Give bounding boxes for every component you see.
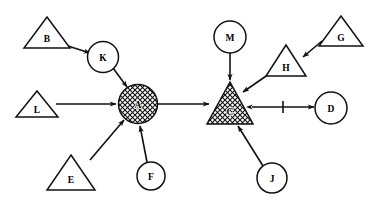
edge-b-to-k: [68, 46, 90, 53]
node-c-label: C: [227, 107, 234, 117]
network-diagram: B K L A E: [0, 0, 381, 206]
node-b[interactable]: B: [24, 17, 70, 48]
node-a-label: A: [135, 100, 142, 110]
edge-g-to-h: [303, 41, 322, 57]
node-l[interactable]: L: [16, 91, 58, 117]
node-j-label: J: [270, 174, 275, 184]
node-f[interactable]: F: [137, 162, 165, 190]
edge-f-to-a: [140, 126, 147, 162]
node-j[interactable]: J: [257, 163, 287, 193]
node-m-label: M: [226, 33, 235, 43]
edge-j-to-c: [238, 126, 263, 166]
node-e[interactable]: E: [47, 155, 95, 190]
node-c-shape: [207, 82, 253, 124]
diagram-canvas: B K L A E: [0, 0, 381, 206]
node-e-label: E: [68, 175, 74, 185]
node-d[interactable]: D: [315, 92, 347, 124]
node-l-label: L: [34, 105, 40, 115]
node-g-label: G: [337, 33, 345, 43]
node-b-label: B: [44, 34, 51, 44]
node-a[interactable]: A: [119, 85, 158, 124]
node-g[interactable]: G: [319, 16, 363, 46]
edge-k-to-a: [113, 68, 127, 87]
edge-e-to-a: [90, 120, 124, 160]
node-f-label: F: [148, 172, 154, 182]
node-k-label: K: [99, 53, 107, 63]
node-d-label: D: [328, 104, 335, 114]
node-m[interactable]: M: [214, 21, 246, 53]
node-k[interactable]: K: [88, 42, 119, 73]
node-c[interactable]: C: [207, 82, 253, 124]
node-h[interactable]: H: [266, 45, 306, 76]
node-h-label: H: [282, 63, 290, 73]
